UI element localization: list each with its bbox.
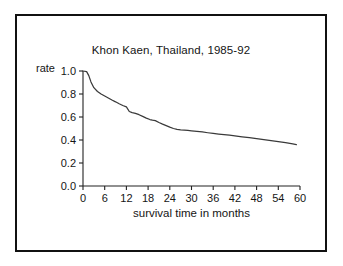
x-axis-label: survival time in months xyxy=(83,207,300,219)
x-tick-label: 54 xyxy=(272,192,284,204)
figure-canvas: Khon Kaen, Thailand, 1985-92 rate 0.00.2… xyxy=(0,0,343,266)
plot-area: 0.00.20.40.60.81.0 06121824303642485460 xyxy=(0,0,343,266)
y-tick-label: 0.4 xyxy=(61,134,76,146)
y-tick-label: 0.0 xyxy=(61,180,76,192)
x-tick-label: 18 xyxy=(142,192,154,204)
y-axis: 0.00.20.40.60.81.0 xyxy=(61,65,83,192)
x-axis: 06121824303642485460 xyxy=(80,186,306,204)
x-tick-label: 42 xyxy=(229,192,241,204)
x-tick-label: 24 xyxy=(164,192,176,204)
x-tick-label: 30 xyxy=(185,192,197,204)
x-tick-label: 36 xyxy=(207,192,219,204)
x-tick-label: 48 xyxy=(250,192,262,204)
x-tick-label: 12 xyxy=(120,192,132,204)
x-tick-label: 0 xyxy=(80,192,86,204)
y-tick-label: 0.6 xyxy=(61,111,76,123)
y-tick-label: 0.2 xyxy=(61,157,76,169)
y-tick-label: 1.0 xyxy=(61,65,76,77)
x-tick-label: 6 xyxy=(102,192,108,204)
y-tick-label: 0.8 xyxy=(61,88,76,100)
survival-curve-line xyxy=(83,71,296,145)
x-tick-label: 60 xyxy=(294,192,306,204)
